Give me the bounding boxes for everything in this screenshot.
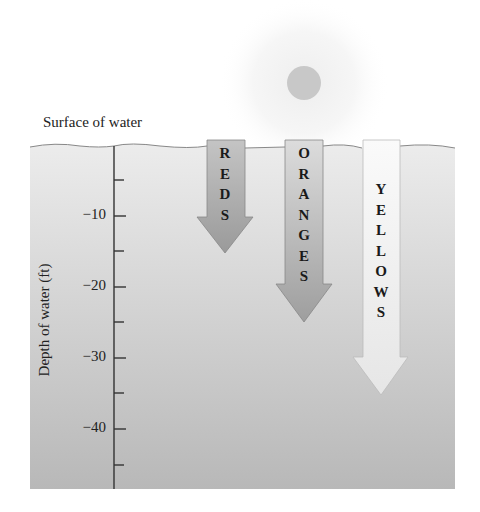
oranges-label: O R A N G E S <box>296 143 312 287</box>
tick-label: −30 <box>46 348 106 365</box>
tick-label: −10 <box>46 206 106 223</box>
reds-label: R E D S <box>217 143 233 225</box>
tick-label: −40 <box>46 419 106 436</box>
letter: E <box>220 164 230 185</box>
letter: R <box>299 164 310 185</box>
yellows-label: Y E L L O W S <box>373 179 389 323</box>
surface-label: Surface of water <box>43 114 142 131</box>
letter: D <box>220 184 231 205</box>
letter: O <box>298 143 310 164</box>
tick-label: −20 <box>46 277 106 294</box>
letter: R <box>220 143 231 164</box>
letter: G <box>298 225 310 246</box>
light-penetration-diagram: Surface of water Depth of water (ft) −10… <box>0 0 480 512</box>
letter: E <box>299 246 309 267</box>
letter: W <box>374 282 389 303</box>
letter: N <box>299 205 310 226</box>
letter: S <box>221 205 229 226</box>
letter: L <box>376 241 386 262</box>
letter: E <box>376 200 386 221</box>
letter: Y <box>376 179 387 200</box>
letter: L <box>376 220 386 241</box>
letter: A <box>299 184 310 205</box>
letter: S <box>377 302 385 323</box>
letter: S <box>300 266 308 287</box>
letter: O <box>375 261 387 282</box>
